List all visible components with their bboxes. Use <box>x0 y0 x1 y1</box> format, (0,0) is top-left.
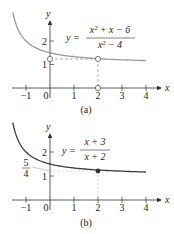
five-fourths-leader <box>32 167 50 171</box>
function-curve <box>13 123 146 172</box>
x-tick-label: −1 <box>21 202 32 213</box>
equation: y = x² + x − 6 x² − 4 <box>65 24 135 50</box>
svg-text:5: 5 <box>24 157 29 168</box>
open-circle-marker <box>47 56 52 61</box>
open-circle-marker <box>95 56 100 61</box>
x-tick-label: 1 <box>72 202 77 213</box>
equation-denominator: x + 2 <box>83 151 105 162</box>
x-ticks: −101234 <box>21 85 149 101</box>
x-tick-label: 3 <box>120 202 125 213</box>
filled-circle-marker <box>96 169 101 174</box>
five-fourths-label: 5 4 <box>22 157 30 179</box>
figure: x y −101234 12 y = x² + x − 6 x² − 4 (a)… <box>0 0 174 234</box>
x-tick-label: −1 <box>21 90 32 101</box>
x-tick-label: 0 <box>44 202 49 213</box>
y-tick-label: 1 <box>42 171 47 182</box>
y-tick-label: 2 <box>42 147 47 158</box>
svg-text:y =: y = <box>61 145 76 156</box>
x-tick-label: 4 <box>144 202 149 213</box>
svg-text:y =: y = <box>65 32 80 43</box>
equation-denominator: x² − 4 <box>97 39 122 50</box>
x-tick-label: 4 <box>144 90 149 101</box>
chart-panel-b: x y −101234 12 5 4 y = x + 3 x + 2 (b) <box>12 121 170 229</box>
x-tick-label: 0 <box>44 90 49 101</box>
x-ticks: −101234 <box>21 197 149 213</box>
equation-numerator: x² + x − 6 <box>89 24 130 35</box>
x-tick-label: 3 <box>120 90 125 101</box>
y-axis-label: y <box>45 121 51 132</box>
panel-label: (b) <box>80 217 92 229</box>
x-tick-label: 1 <box>72 90 77 101</box>
chart-panel-a: x y −101234 12 y = x² + x − 6 x² − 4 (a) <box>12 8 170 116</box>
x-axis-label: x <box>164 194 170 205</box>
panel-label: (a) <box>80 104 91 116</box>
y-tick-label: 1 <box>42 59 47 70</box>
x-axis-label: x <box>164 82 170 93</box>
equation: y = x + 3 x + 2 <box>61 136 110 162</box>
x-tick-label: 2 <box>96 90 101 101</box>
open-circle-marker <box>95 85 100 90</box>
y-tick-label: 2 <box>42 36 47 47</box>
x-tick-label: 2 <box>96 202 101 213</box>
svg-text:4: 4 <box>24 168 29 179</box>
equation-numerator: x + 3 <box>83 136 105 147</box>
y-axis-label: y <box>45 8 51 19</box>
